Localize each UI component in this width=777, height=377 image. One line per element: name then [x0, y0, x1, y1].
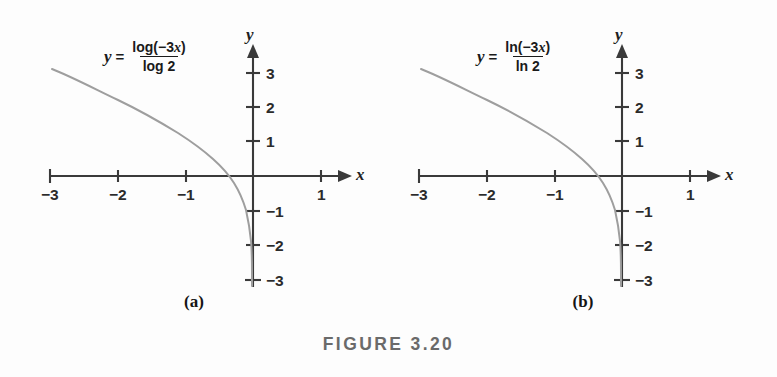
equation-a-equals: =	[116, 49, 125, 64]
chart-panel-a: y = log(−3x) log 2 x y −3 −2 −1 1 3 2 1 …	[0, 0, 388, 330]
y-tick-label-3: 3	[635, 66, 644, 82]
y-tick-label-3: 3	[266, 66, 275, 82]
equation-b-fraction: ln(−3x) ln 2	[502, 40, 553, 73]
chart-panel-b: y = ln(−3x) ln 2 x y −3 −2 −1 1 3 2 1 −1…	[389, 0, 777, 330]
y-tick-label-2: 2	[266, 100, 275, 116]
x-axis-label: x	[356, 166, 365, 183]
y-axis-arrowhead	[247, 44, 259, 58]
equation-b-denominator: ln 2	[513, 56, 543, 73]
x-tick-label-neg1: −1	[546, 187, 564, 203]
equation-a-fraction: log(−3x) log 2	[129, 40, 188, 73]
x-tick-label-neg1: −1	[177, 187, 195, 203]
y-axis-label: y	[615, 26, 623, 43]
equation-b-equals: =	[489, 49, 498, 64]
y-axis-label: y	[246, 26, 254, 43]
panel-label-b: (b)	[389, 292, 777, 312]
plot-svg-b	[389, 0, 777, 330]
panel-label-a: (a)	[0, 292, 388, 312]
figure-caption: FIGURE 3.20	[0, 334, 777, 355]
equation-b-numerator: ln(−3x)	[502, 40, 553, 56]
x-tick-label-neg3: −3	[410, 187, 428, 203]
equation-b: y = ln(−3x) ln 2	[477, 40, 553, 73]
equation-a-numerator: log(−3x)	[129, 40, 188, 56]
x-tick-label-neg2: −2	[478, 187, 496, 203]
x-tick-label-neg3: −3	[41, 187, 59, 203]
y-tick-label-1: 1	[635, 134, 644, 150]
y-axis-arrowhead	[616, 44, 628, 58]
y-tick-label-neg3: −3	[635, 273, 653, 289]
x-tick-label-pos1: 1	[317, 187, 326, 203]
curve-log-base2	[52, 69, 252, 286]
equation-a-denominator: log 2	[140, 56, 179, 73]
x-tick-label-pos1: 1	[686, 187, 695, 203]
x-axis-label: x	[725, 166, 734, 183]
y-tick-label-2: 2	[635, 100, 644, 116]
x-tick-label-neg2: −2	[109, 187, 127, 203]
y-tick-label-neg1: −1	[635, 204, 653, 220]
y-tick-label-neg1: −1	[266, 204, 284, 220]
y-tick-label-1: 1	[266, 134, 275, 150]
x-axis-arrowhead	[707, 170, 721, 182]
y-tick-label-neg2: −2	[635, 238, 653, 254]
equation-a-lhs: y	[104, 48, 112, 65]
curve-log-base2	[421, 69, 621, 286]
y-tick-label-neg2: −2	[266, 238, 284, 254]
equation-b-lhs: y	[477, 48, 485, 65]
equation-a: y = log(−3x) log 2	[104, 40, 189, 73]
plot-svg-a	[0, 0, 388, 330]
figure-container: y = log(−3x) log 2 x y −3 −2 −1 1 3 2 1 …	[0, 0, 777, 377]
y-tick-label-neg3: −3	[266, 273, 284, 289]
x-axis-arrowhead	[338, 170, 352, 182]
